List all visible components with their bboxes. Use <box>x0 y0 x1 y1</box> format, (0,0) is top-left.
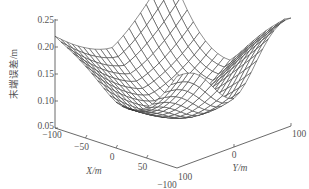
z-axis-label: 末端误差/m <box>8 48 19 99</box>
y-tick-label: −100 <box>157 180 177 189</box>
z-tick-label: 0.25 <box>37 15 54 25</box>
surface-chart: 0.050.100.150.200.25−100−50050100−100010… <box>0 0 309 189</box>
x-tick <box>116 145 118 148</box>
x-tick-label: 50 <box>138 162 148 172</box>
y-tick-label: 100 <box>292 129 307 139</box>
surface-patch <box>55 36 67 45</box>
y-tick-label: 0 <box>232 150 237 160</box>
x-tick-label: −50 <box>74 142 89 152</box>
x-tick-label: −100 <box>42 130 62 140</box>
z-tick-label: 0.15 <box>37 69 54 79</box>
x-tick <box>147 155 149 158</box>
y-axis-label: Y/m <box>233 163 248 173</box>
x-tick-label: 100 <box>178 172 193 182</box>
x-axis-label: X/m <box>85 166 101 176</box>
x-tick-label: 0 <box>110 152 115 162</box>
z-tick-label: 0.20 <box>37 42 54 52</box>
x-tick <box>86 135 88 138</box>
surface-mesh <box>55 0 291 118</box>
z-tick-label: 0.10 <box>37 96 54 106</box>
